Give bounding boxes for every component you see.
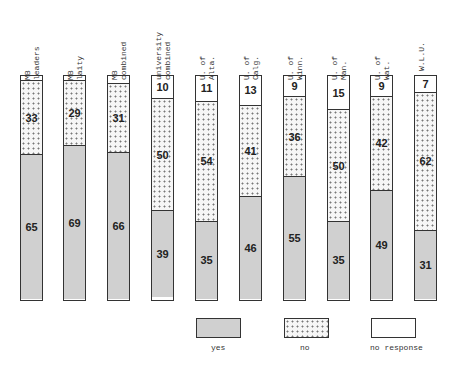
bar: 134146 bbox=[239, 75, 262, 301]
value-label: 31 bbox=[112, 112, 124, 124]
category-label: MB laity bbox=[66, 56, 84, 80]
bar: 93655 bbox=[283, 75, 306, 301]
value-label: 69 bbox=[68, 217, 80, 229]
bar-segment-yes: 31 bbox=[415, 230, 436, 299]
value-label: 46 bbox=[244, 242, 256, 254]
bar-segment-no: 50 bbox=[152, 98, 173, 210]
bar-segment-no: 31 bbox=[108, 83, 129, 152]
category-label: U. of Calg. bbox=[242, 56, 260, 80]
bar-segment-yes: 35 bbox=[328, 221, 349, 299]
bar: 2969 bbox=[63, 75, 86, 301]
legend-label-yes: yes bbox=[211, 343, 225, 352]
value-label: 13 bbox=[244, 84, 256, 96]
value-label: 33 bbox=[25, 112, 37, 124]
bar-segment-no: 33 bbox=[21, 80, 42, 154]
bar-segment-no-response: 7 bbox=[415, 76, 436, 92]
value-label: 11 bbox=[201, 82, 213, 94]
category-label: MB leaders bbox=[23, 46, 41, 80]
bar: 3365 bbox=[20, 75, 43, 301]
value-label: 50 bbox=[332, 160, 344, 172]
bar-segment-no: 29 bbox=[64, 80, 85, 145]
bar-segment-yes: 46 bbox=[240, 196, 261, 299]
bar-segment-no: 36 bbox=[284, 96, 305, 176]
bar-segment-yes: 35 bbox=[196, 221, 217, 299]
bar-segment-no: 62 bbox=[415, 92, 436, 230]
bar-segment-yes: 55 bbox=[284, 176, 305, 299]
bar-segment-yes: 39 bbox=[152, 210, 173, 297]
value-label: 15 bbox=[332, 87, 344, 99]
value-label: 29 bbox=[68, 107, 80, 119]
bar-segment-no: 42 bbox=[371, 96, 392, 190]
bar-segment-no: 41 bbox=[240, 105, 261, 196]
legend-swatch-no-response bbox=[371, 318, 416, 338]
bar-segment-yes: 66 bbox=[108, 152, 129, 299]
category-label: U. of Man. bbox=[330, 56, 348, 80]
value-label: 42 bbox=[375, 137, 387, 149]
category-label: MB combined bbox=[110, 42, 128, 80]
bar: 76231 bbox=[414, 75, 437, 301]
value-label: 35 bbox=[200, 254, 212, 266]
bar-segment-no: 54 bbox=[196, 101, 217, 221]
value-label: 41 bbox=[244, 145, 256, 157]
legend-swatch-no bbox=[284, 318, 329, 338]
category-label: W.L.U. bbox=[417, 42, 426, 71]
value-label: 49 bbox=[375, 239, 387, 251]
category-label: U. of Wat. bbox=[373, 56, 391, 80]
category-label: U. of Winn. bbox=[286, 56, 304, 80]
bar: 94249 bbox=[370, 75, 393, 301]
stacked-bar-chart: 3365MB leaders2969MB laity3166MB combine… bbox=[0, 0, 456, 372]
value-label: 66 bbox=[112, 220, 124, 232]
value-label: 35 bbox=[332, 254, 344, 266]
bar-segment-yes: 65 bbox=[21, 154, 42, 299]
bar-segment-yes: 49 bbox=[371, 190, 392, 299]
bar: 115435 bbox=[195, 75, 218, 301]
value-label: 9 bbox=[291, 80, 297, 92]
bar: 105039 bbox=[151, 75, 174, 301]
value-label: 36 bbox=[288, 131, 300, 143]
value-label: 62 bbox=[419, 155, 431, 167]
value-label: 55 bbox=[288, 232, 300, 244]
legend-label-no: no bbox=[300, 343, 310, 352]
legend-label-no-response: no response bbox=[370, 343, 423, 352]
legend-swatch-yes bbox=[196, 318, 241, 338]
value-label: 10 bbox=[156, 81, 168, 93]
category-label: U. of Alta. bbox=[198, 56, 216, 80]
bar: 155035 bbox=[327, 75, 350, 301]
bar-segment-yes: 69 bbox=[64, 145, 85, 299]
value-label: 50 bbox=[156, 149, 168, 161]
bar-segment-no: 50 bbox=[328, 109, 349, 221]
category-label: university combined bbox=[154, 32, 172, 80]
value-label: 31 bbox=[419, 259, 431, 271]
bar-segment-no-response: 13 bbox=[240, 76, 261, 105]
value-label: 7 bbox=[422, 78, 428, 90]
bar: 3166 bbox=[107, 75, 130, 301]
value-label: 54 bbox=[200, 155, 212, 167]
value-label: 9 bbox=[378, 80, 384, 92]
value-label: 39 bbox=[156, 248, 168, 260]
bar-segment-no-response: 15 bbox=[328, 76, 349, 109]
value-label: 65 bbox=[25, 221, 37, 233]
